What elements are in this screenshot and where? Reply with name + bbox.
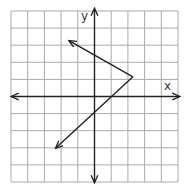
x-axis-label: x (164, 79, 171, 93)
coordinate-plane: x y (0, 0, 193, 192)
axes (12, 9, 179, 182)
graph-ray (69, 41, 132, 77)
y-axis-label: y (81, 9, 88, 23)
